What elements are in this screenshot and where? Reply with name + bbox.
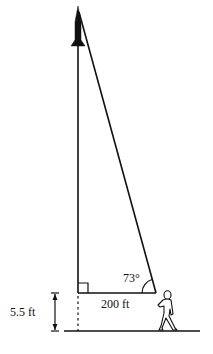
base-length-label: 200 ft xyxy=(101,298,129,310)
right-angle-marker xyxy=(78,283,88,293)
angle-label: 73° xyxy=(123,272,140,284)
angle-arc xyxy=(142,280,152,294)
eye-height-label: 5.5 ft xyxy=(10,306,35,318)
height-dimension-arrow xyxy=(51,293,59,331)
person-icon xyxy=(158,291,177,330)
hypotenuse xyxy=(79,12,156,293)
